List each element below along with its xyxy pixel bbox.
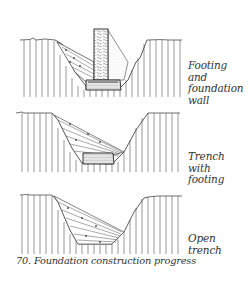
stage-open-trench-drawing	[20, 195, 182, 255]
stage-label-footing-and-wall: Footing and foundation wall	[188, 60, 243, 106]
label-line: footing	[188, 174, 224, 186]
label-line: foundation	[188, 83, 243, 95]
figure-caption: 70. Foundation construction progress	[16, 255, 196, 266]
stage-footing-and-wall-drawing	[20, 29, 182, 97]
label-line: Footing	[188, 60, 243, 72]
stage-trench-with-footing-drawing	[16, 112, 180, 172]
label-line: wall	[188, 95, 243, 107]
label-line: Trench	[188, 151, 224, 163]
stage-label-open-trench: Open trench	[188, 233, 222, 256]
label-line: Open	[188, 233, 222, 245]
stage-label-trench-with-footing: Trench with footing	[188, 151, 224, 186]
